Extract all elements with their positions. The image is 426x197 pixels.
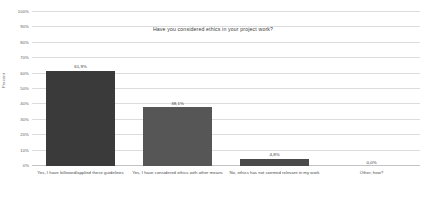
- y-tick-label: 80%: [20, 39, 29, 44]
- x-axis-category-label: No, ethics has not seemed relevant in my…: [226, 170, 323, 176]
- plot-area: 0%10%20%30%40%50%60%70%80%90%100% 61,9%3…: [32, 12, 420, 166]
- x-axis-category-labels: Yes, I have followed/applied these guide…: [32, 170, 420, 196]
- y-axis-title: Percent: [1, 51, 6, 111]
- bars-layer: 61,9%38,1%4,8%0,0%: [32, 12, 420, 166]
- bar[interactable]: [143, 107, 213, 166]
- y-tick-label: 100%: [18, 9, 29, 14]
- bar-slot: 0,0%: [323, 12, 420, 166]
- y-tick-label: 0%: [23, 163, 29, 168]
- bar-chart: Percent Have you considered ethics in yo…: [0, 0, 426, 197]
- bar-slot: 38,1%: [129, 12, 226, 166]
- y-tick-label: 30%: [20, 116, 29, 121]
- y-tick-label: 10%: [20, 147, 29, 152]
- x-axis-category-label: Yes, I have followed/applied these guide…: [32, 170, 129, 176]
- bar-slot: 4,8%: [226, 12, 323, 166]
- y-tick-label: 60%: [20, 70, 29, 75]
- y-tick-label: 20%: [20, 132, 29, 137]
- bar-value-label: 38,1%: [129, 101, 226, 106]
- y-tick-label: 70%: [20, 55, 29, 60]
- bar[interactable]: [240, 159, 310, 166]
- bar-value-label: 0,0%: [323, 160, 420, 165]
- bar-value-label: 61,9%: [32, 64, 129, 69]
- bar-slot: 61,9%: [32, 12, 129, 166]
- x-axis-category-label: Yes, I have considered ethics with other…: [129, 170, 226, 176]
- y-tick-label: 40%: [20, 101, 29, 106]
- y-tick-label: 90%: [20, 24, 29, 29]
- y-tick-label: 50%: [20, 86, 29, 91]
- bar[interactable]: [46, 71, 116, 166]
- x-axis-category-label: Other, how?: [323, 170, 420, 176]
- bar-value-label: 4,8%: [226, 152, 323, 157]
